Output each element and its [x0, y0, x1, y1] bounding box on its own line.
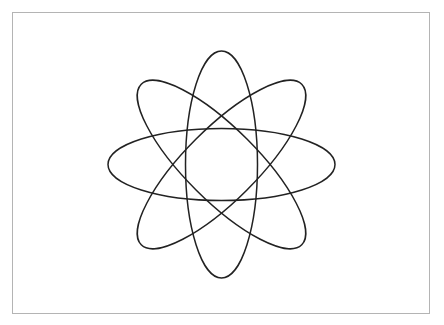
orbit-ellipse-diagonal-down [116, 59, 327, 270]
orbit-ellipse-horizontal [108, 129, 335, 201]
orbit-ellipse-vertical [186, 51, 258, 278]
orbit-ellipse-diagonal-up [116, 59, 327, 270]
atom-diagram [0, 0, 444, 325]
